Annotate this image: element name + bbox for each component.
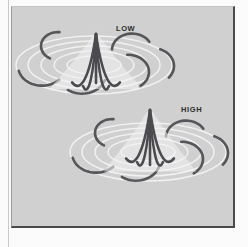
panel-label-low: LOW: [116, 24, 135, 33]
panel-high-arc-3: [166, 121, 203, 137]
panel-high-plume: [104, 107, 196, 172]
frame-accent-line: [8, 0, 9, 247]
figure-root: LOW HIGH: [0, 0, 248, 247]
panel-low-plume: [50, 31, 142, 90]
panel-high: [70, 107, 228, 181]
panel-label-high: HIGH: [181, 105, 202, 114]
panel-low-arc-3: [112, 34, 149, 50]
vortex-plume-diagram: [0, 0, 248, 247]
panel-low: [16, 31, 174, 94]
